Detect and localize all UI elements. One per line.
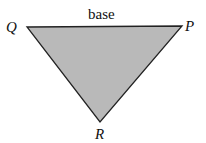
vertex-label-r: R xyxy=(94,126,104,142)
vertex-label-p: P xyxy=(184,18,194,34)
triangle-pqr xyxy=(27,26,182,122)
base-label: base xyxy=(88,6,115,22)
triangle-diagram: base Q P R xyxy=(0,0,206,143)
vertex-label-q: Q xyxy=(6,19,17,35)
